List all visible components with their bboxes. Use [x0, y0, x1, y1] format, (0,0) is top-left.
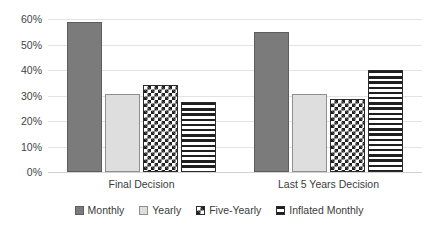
- y-axis-tick-label: 30%: [21, 90, 42, 101]
- chart-legend: MonthlyYearlyFive-YearlyInflated Monthly: [0, 199, 438, 221]
- y-axis-tick-label: 20%: [21, 116, 42, 127]
- bar: [181, 102, 216, 172]
- bar-series-layer: [48, 19, 422, 172]
- legend-swatch-icon: [196, 206, 205, 215]
- x-axis: Final DecisionLast 5 Years Decision: [48, 176, 422, 194]
- bar: [143, 85, 178, 172]
- bar: [254, 32, 289, 172]
- legend-label: Five-Yearly: [209, 205, 261, 216]
- bar: [330, 99, 365, 172]
- y-axis-tick-label: 60%: [21, 14, 42, 25]
- legend-swatch-icon: [139, 206, 148, 215]
- legend-item[interactable]: Five-Yearly: [196, 205, 261, 216]
- x-axis-category-label: Last 5 Years Decision: [278, 176, 379, 192]
- y-axis: 60%50%40%30%20%10%0%: [0, 0, 46, 229]
- bar: [292, 94, 327, 172]
- plot-area: [48, 19, 422, 172]
- legend-swatch-icon: [75, 206, 84, 215]
- legend-label: Monthly: [88, 205, 125, 216]
- bar: [105, 94, 140, 172]
- legend-label: Inflated Monthly: [289, 205, 363, 216]
- legend-item[interactable]: Inflated Monthly: [276, 205, 363, 216]
- legend-item[interactable]: Monthly: [75, 205, 125, 216]
- legend-item[interactable]: Yearly: [139, 205, 181, 216]
- y-axis-tick-label: 10%: [21, 141, 42, 152]
- gridline: [48, 172, 422, 173]
- y-axis-tick-label: 40%: [21, 65, 42, 76]
- legend-label: Yearly: [152, 205, 181, 216]
- x-axis-category-label: Final Decision: [109, 176, 175, 192]
- bar: [368, 70, 403, 172]
- bar-chart: 60%50%40%30%20%10%0% Final DecisionLast …: [0, 0, 438, 229]
- y-axis-tick-label: 0%: [27, 167, 42, 178]
- y-axis-tick-label: 50%: [21, 39, 42, 50]
- bar: [67, 22, 102, 172]
- legend-swatch-icon: [276, 206, 285, 215]
